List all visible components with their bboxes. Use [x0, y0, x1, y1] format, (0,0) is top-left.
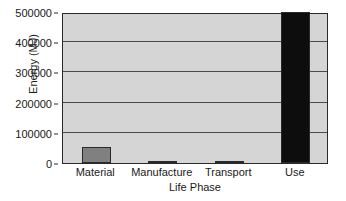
x-axis-tick-label: Manufacture: [131, 166, 192, 178]
y-axis-tick-label: 300000: [15, 67, 52, 79]
y-axis-tick-mark: [54, 43, 58, 44]
y-axis-tick-mark: [54, 133, 58, 134]
bar-material: [82, 147, 111, 163]
y-axis-tick-label: 400000: [15, 37, 52, 49]
x-axis-tick-label: Material: [76, 166, 115, 178]
plot-area: [62, 13, 328, 164]
bar-use: [281, 12, 310, 163]
x-axis-tick-labels: MaterialManufactureTransportUse: [62, 166, 328, 182]
y-axis-tick-mark: [54, 164, 58, 165]
x-axis-tick-label: Transport: [205, 166, 252, 178]
y-axis-tick-label: 500000: [15, 7, 52, 19]
bar-manufacture: [148, 161, 177, 163]
bar-series: [63, 14, 327, 163]
y-axis-tick-mark: [54, 13, 58, 14]
y-axis-tick-mark: [54, 103, 58, 104]
bar-transport: [215, 161, 244, 163]
y-axis-tick-mark: [54, 73, 58, 74]
y-axis-tick-label: 200000: [15, 98, 52, 110]
y-axis-tick-label: 100000: [15, 128, 52, 140]
x-axis-title: Life Phase: [62, 181, 328, 193]
y-axis-tick-labels: 0100000200000300000400000500000: [0, 0, 58, 201]
x-axis-tick-label: Use: [285, 166, 305, 178]
y-axis-tick-label: 0: [46, 158, 52, 170]
bar-chart-figure: Energy (MJ) 0100000200000300000400000500…: [0, 0, 346, 201]
